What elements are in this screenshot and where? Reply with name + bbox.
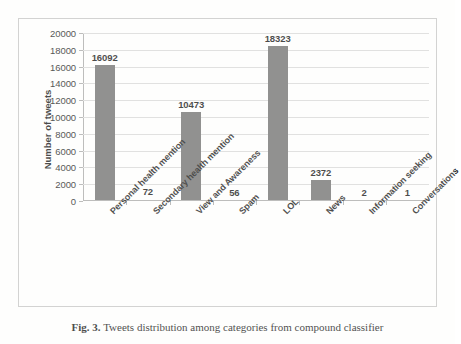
bar-value-label: 16092 bbox=[92, 52, 118, 63]
bar-value-label: 56 bbox=[229, 187, 239, 198]
y-tick-mark bbox=[79, 117, 83, 118]
plot-area: 0200040006000800010000120001400016000180… bbox=[83, 33, 429, 201]
gridline bbox=[83, 134, 429, 135]
gridline bbox=[83, 33, 429, 34]
y-tick-mark bbox=[79, 151, 83, 152]
bar bbox=[311, 180, 331, 200]
y-tick-mark bbox=[79, 167, 83, 168]
y-tick-mark bbox=[79, 201, 83, 202]
gridline bbox=[83, 50, 429, 51]
y-tick-mark bbox=[79, 100, 83, 101]
y-tick-mark bbox=[79, 67, 83, 68]
bar-value-label: 2 bbox=[362, 187, 367, 198]
y-tick-mark bbox=[79, 33, 83, 34]
bar-value-label: 1 bbox=[405, 187, 410, 198]
y-tick-label: 16000 bbox=[50, 61, 76, 72]
bar-value-label: 72 bbox=[143, 186, 153, 197]
y-tick-mark bbox=[79, 83, 83, 84]
y-tick-label: 4000 bbox=[55, 162, 76, 173]
y-tick-mark bbox=[79, 50, 83, 51]
bar-value-label: 10473 bbox=[178, 99, 204, 110]
y-tick-mark bbox=[79, 134, 83, 135]
gridline bbox=[83, 100, 429, 101]
bar-value-label: 18323 bbox=[265, 33, 291, 44]
y-tick-mark bbox=[79, 184, 83, 185]
y-tick-label: 6000 bbox=[55, 145, 76, 156]
y-tick-label: 2000 bbox=[55, 179, 76, 190]
y-tick-label: 20000 bbox=[50, 28, 76, 39]
bar bbox=[268, 46, 288, 200]
gridline bbox=[83, 117, 429, 118]
y-tick-label: 12000 bbox=[50, 95, 76, 106]
caption-label: Fig. 3. bbox=[72, 321, 101, 333]
y-tick-label: 18000 bbox=[50, 44, 76, 55]
gridline bbox=[83, 167, 429, 168]
chart-frame: Number of tweets 02000400060008000100001… bbox=[18, 18, 437, 307]
bar bbox=[95, 65, 115, 200]
y-tick-label: 14000 bbox=[50, 78, 76, 89]
y-tick-label: 10000 bbox=[50, 112, 76, 123]
y-tick-label: 0 bbox=[71, 196, 76, 207]
gridline bbox=[83, 83, 429, 84]
bar-value-label: 2372 bbox=[311, 167, 332, 178]
gridline bbox=[83, 67, 429, 68]
figure-caption: Fig. 3. Tweets distribution among catego… bbox=[0, 321, 455, 333]
y-tick-label: 8000 bbox=[55, 128, 76, 139]
caption-text: Tweets distribution among categories fro… bbox=[101, 321, 384, 333]
